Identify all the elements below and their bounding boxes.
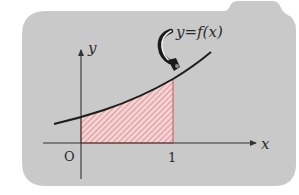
x-axis-label: x <box>261 135 270 153</box>
curve-label: y=f(x) <box>175 23 223 41</box>
y-axis-label: y <box>87 39 97 57</box>
x-tick-label-1: 1 <box>168 150 176 165</box>
diagram-canvas: y y=f(x) x O 1 <box>0 0 299 195</box>
origin-label: O <box>64 149 75 164</box>
area-under-curve-figure: y y=f(x) x O 1 <box>0 0 299 195</box>
